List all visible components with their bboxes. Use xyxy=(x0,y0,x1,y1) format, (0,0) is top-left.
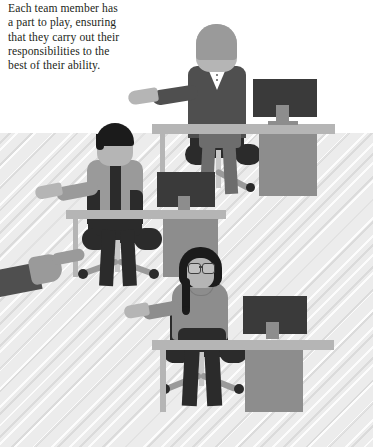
glasses-lens-right-icon xyxy=(202,263,215,274)
glasses-bridge-icon xyxy=(199,266,202,268)
worker-bottom-leg-left xyxy=(182,344,200,407)
illustration-page: Each team member has a part to play, ens… xyxy=(0,0,373,447)
desk-leg-bottom xyxy=(160,350,166,412)
glasses-lens-left-icon xyxy=(188,263,201,274)
chair-caster-right-bottom xyxy=(234,384,244,394)
monitor-stand-neck-bottom xyxy=(266,322,279,339)
worker-bottom-leg-right xyxy=(204,344,222,407)
worker-bottom-braid-tip xyxy=(182,306,190,315)
caption-text: Each team member has a part to play, ens… xyxy=(8,2,183,73)
chair-post-bottom xyxy=(199,352,204,386)
desk-top-surface-bottom xyxy=(152,340,334,350)
desk-pedestal-bottom xyxy=(245,350,303,412)
